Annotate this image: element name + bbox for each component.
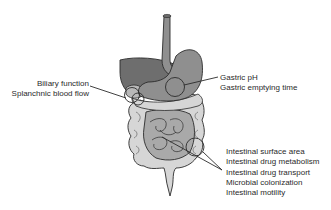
intestinal-callout-label: Intestinal surface area Intestinal drug … — [226, 147, 319, 198]
biliary-callout-label: Biliary function Splanchnic blood flow — [12, 79, 89, 100]
label-intestinal-motility: Intestinal motility — [226, 188, 319, 198]
label-gastric-ph: Gastric pH — [220, 73, 297, 83]
label-splanchnic-blood-flow: Splanchnic blood flow — [12, 89, 89, 99]
label-biliary-function: Biliary function — [12, 79, 89, 89]
label-intestinal-drug-transport: Intestinal drug transport — [226, 168, 319, 178]
label-gastric-emptying-time: Gastric emptying time — [220, 83, 297, 93]
label-microbial-colonization: Microbial colonization — [226, 178, 319, 188]
gastric-callout-label: Gastric pH Gastric emptying time — [220, 73, 297, 94]
biliary-leader-line — [90, 86, 126, 98]
label-intestinal-surface-area: Intestinal surface area — [226, 147, 319, 157]
small-intestine — [144, 109, 195, 160]
label-intestinal-drug-metabolism: Intestinal drug metabolism — [226, 157, 319, 167]
